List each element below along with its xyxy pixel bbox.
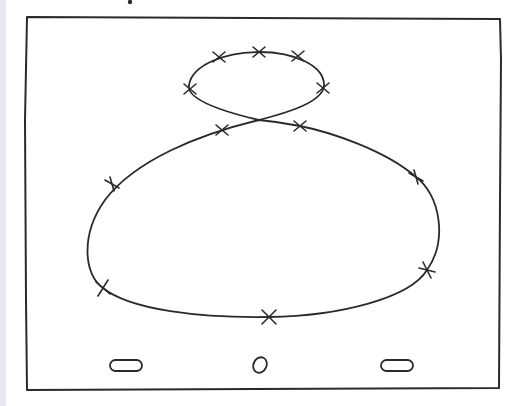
marker-icon (216, 125, 228, 135)
left-pill-button[interactable] (110, 360, 142, 371)
nav-bar (110, 355, 413, 375)
home-circle-button[interactable] (251, 355, 270, 375)
figure-eight-path (87, 52, 439, 317)
right-pill-button[interactable] (381, 360, 413, 371)
upper-loop (189, 52, 324, 120)
device-frame (25, 17, 501, 390)
markers (96, 47, 435, 324)
marker-icon (419, 262, 435, 278)
top-dot (128, 0, 132, 4)
marker-icon (105, 177, 119, 191)
lower-loop (87, 120, 439, 317)
sketch-canvas (0, 0, 517, 406)
